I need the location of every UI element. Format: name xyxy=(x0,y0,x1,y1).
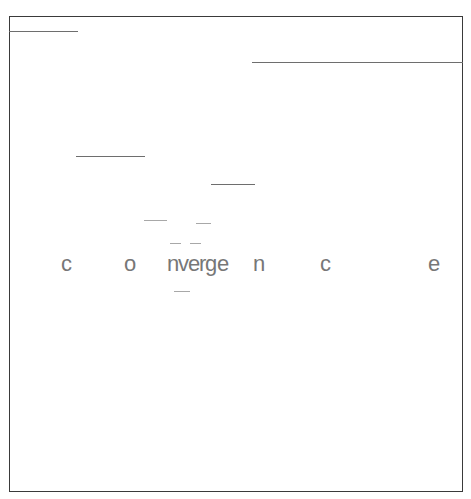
word-letter: o xyxy=(124,253,136,275)
word-letter: g xyxy=(205,253,217,275)
word-letter: c xyxy=(61,253,72,275)
word-letter: e xyxy=(217,253,229,275)
artwork-canvas: convergence xyxy=(0,0,471,499)
word-letter: e xyxy=(428,253,440,275)
convergence-word-layer: convergence xyxy=(0,0,471,499)
word-letter: c xyxy=(320,253,331,275)
word-letter: n xyxy=(253,253,265,275)
